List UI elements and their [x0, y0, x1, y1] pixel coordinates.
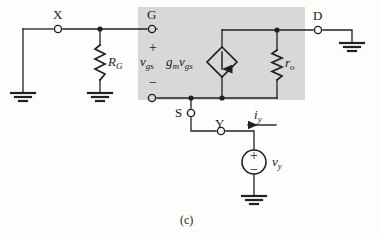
- figure-container: X G D S Y + − vgs RG ro gmvgs iy vy + − …: [0, 0, 380, 235]
- terminal-g[interactable]: [148, 25, 155, 32]
- vgs-plus-sign: +: [149, 41, 157, 55]
- rg-base: R: [108, 54, 116, 69]
- vgs-label: vgs: [140, 55, 154, 71]
- terminal-label-g: G: [147, 8, 156, 21]
- terminal-label-x: X: [53, 8, 62, 21]
- wire-d-to-ground: [323, 30, 352, 43]
- wire-s-to-y: [191, 118, 216, 131]
- terminal-label-y: Y: [215, 117, 224, 130]
- gmv-subscript: gs: [185, 61, 193, 71]
- resistor-rg-body: [95, 45, 105, 80]
- terminal-d[interactable]: [314, 26, 321, 33]
- voltage-source-label-vy: vy: [272, 155, 282, 171]
- junction-dot-drain-top: [274, 27, 279, 32]
- terminal-label-s: S: [175, 106, 182, 119]
- dependent-source-label: gmvgs: [166, 55, 193, 71]
- terminal-source-box[interactable]: [148, 94, 155, 101]
- junction-dot-s-bottom: [188, 95, 193, 100]
- vgs-minus-sign: −: [149, 76, 157, 90]
- terminal-s[interactable]: [187, 109, 194, 116]
- ro-subscript: o: [290, 62, 295, 72]
- iy-subscript: y: [258, 114, 262, 124]
- vy-subscript: y: [278, 161, 282, 171]
- terminal-label-d: D: [313, 9, 322, 22]
- vy-plus-sign: +: [250, 149, 258, 163]
- current-label-iy: iy: [254, 108, 262, 124]
- ground-vy: [242, 196, 266, 204]
- ground-drain: [340, 43, 364, 51]
- ground-left: [11, 93, 35, 101]
- circuit-schematic: [0, 0, 380, 235]
- resistor-rg-label: RG: [108, 55, 122, 71]
- ground-rg: [88, 93, 112, 101]
- terminal-x[interactable]: [54, 25, 61, 32]
- junction-dot-x-rg: [97, 26, 102, 31]
- rg-subscript: G: [116, 61, 123, 71]
- vy-minus-sign: −: [250, 163, 258, 177]
- figure-caption: (c): [180, 214, 193, 226]
- junction-dot-source-bottom: [219, 95, 224, 100]
- vgs-subscript: gs: [146, 61, 154, 71]
- resistor-ro-label: ro: [285, 56, 295, 72]
